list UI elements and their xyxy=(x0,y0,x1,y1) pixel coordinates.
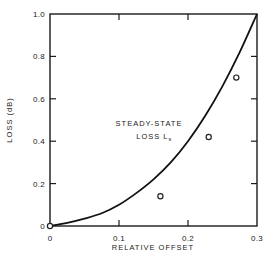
annotation-text: LOSS Ls xyxy=(136,132,172,142)
y-tick-label: 0.2 xyxy=(33,180,45,189)
data-point-marker xyxy=(234,75,239,80)
x-tick-label: 0.3 xyxy=(251,234,263,243)
y-tick-label: 0.8 xyxy=(33,52,45,61)
x-tick-label: 0.1 xyxy=(113,234,125,243)
x-tick-label: 0 xyxy=(48,234,53,243)
data-point-marker xyxy=(47,223,52,228)
y-tick-label: 1.0 xyxy=(33,10,45,19)
y-tick-labels: 00.20.40.60.81.0 xyxy=(33,10,45,231)
x-axis-title: RELATIVE OFFSET xyxy=(112,243,194,252)
annotation-text: STEADY-STATE xyxy=(116,119,183,128)
measured-points xyxy=(47,75,239,229)
y-tick-label: 0.4 xyxy=(33,137,45,146)
y-axis-title: LOSS (dB) xyxy=(5,97,14,142)
data-point-marker xyxy=(206,134,211,139)
y-tick-label: 0 xyxy=(40,222,45,231)
y-tick-label: 0.6 xyxy=(33,95,45,104)
x-tick-label: 0.2 xyxy=(182,234,194,243)
curve-annotation: STEADY-STATELOSS Ls xyxy=(116,119,183,142)
data-point-marker xyxy=(158,194,163,199)
x-tick-labels: 00.10.20.3 xyxy=(48,234,264,243)
chart: 00.10.20.3 00.20.40.60.81.0 RELATIVE OFF… xyxy=(0,0,272,261)
